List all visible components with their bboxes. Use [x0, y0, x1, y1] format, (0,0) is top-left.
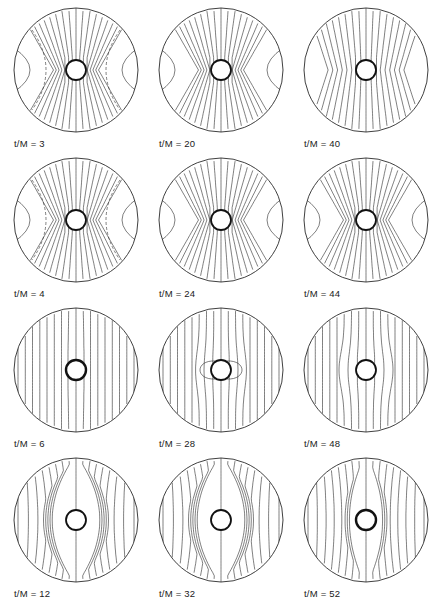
- horizon-circle: [66, 210, 86, 230]
- panel-p12: t/M = 52: [302, 456, 439, 608]
- panel-p5: t/M = 24: [157, 156, 303, 308]
- panel-label: t/M = 48: [304, 438, 340, 449]
- horizon-circle: [356, 360, 376, 380]
- panel-p4: t/M = 4: [12, 156, 158, 308]
- panel-label: t/M = 24: [159, 288, 195, 299]
- panel-label: t/M = 52: [304, 588, 340, 599]
- panel-label: t/M = 32: [159, 588, 195, 599]
- horizon-circle: [211, 60, 231, 80]
- field-diagram: [157, 306, 287, 436]
- panel-p10: t/M = 12: [12, 456, 158, 608]
- field-diagram: [302, 456, 432, 586]
- panel-label: t/M = 28: [159, 438, 195, 449]
- field-diagram: [12, 156, 142, 286]
- panel-label: t/M = 44: [304, 288, 340, 299]
- horizon-circle: [66, 510, 86, 530]
- panel-p7: t/M = 6: [12, 306, 158, 458]
- panel-p2: t/M = 20: [157, 6, 303, 158]
- field-diagram: [12, 456, 142, 586]
- horizon-circle: [211, 360, 231, 380]
- panel-label: t/M = 3: [14, 138, 45, 149]
- panel-p6: t/M = 44: [302, 156, 439, 308]
- horizon-circle: [356, 210, 376, 230]
- field-diagram: [302, 156, 432, 286]
- horizon-circle: [356, 510, 376, 530]
- panel-label: t/M = 40: [304, 138, 340, 149]
- panel-label: t/M = 6: [14, 438, 45, 449]
- horizon-circle: [66, 360, 86, 380]
- field-diagram: [157, 156, 287, 286]
- field-diagram: [12, 306, 142, 436]
- panel-p8: t/M = 28: [157, 306, 303, 458]
- panel-label: t/M = 4: [14, 288, 45, 299]
- panel-label: t/M = 20: [159, 138, 195, 149]
- field-diagram: [157, 6, 287, 136]
- horizon-circle: [211, 510, 231, 530]
- horizon-circle: [356, 60, 376, 80]
- horizon-circle: [211, 210, 231, 230]
- field-diagram: [12, 6, 142, 136]
- panel-label: t/M = 12: [14, 588, 50, 599]
- field-diagram: [302, 306, 432, 436]
- field-diagram: [302, 6, 432, 136]
- horizon-circle: [66, 60, 86, 80]
- panel-p9: t/M = 48: [302, 306, 439, 458]
- panel-p3: t/M = 40: [302, 6, 439, 158]
- field-diagram: [157, 456, 287, 586]
- panel-p11: t/M = 32: [157, 456, 303, 608]
- panel-p1: t/M = 3: [12, 6, 158, 158]
